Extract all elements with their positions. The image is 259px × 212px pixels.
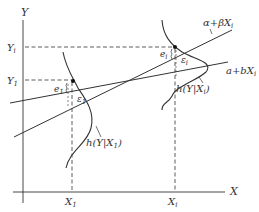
y-tick-y1: Y1 xyxy=(7,75,18,88)
residual-ei: ei xyxy=(160,49,168,61)
error-eps1: ε1 xyxy=(77,94,86,106)
x-tick-x1: X1 xyxy=(64,196,77,209)
error-epsi: εi xyxy=(181,55,188,67)
density-label-x1: h(Y|X1) xyxy=(86,137,122,150)
y-tick-yi: Yi xyxy=(7,42,16,55)
population-line-label: α+βXi xyxy=(203,17,233,30)
x-tick-xi: Xi xyxy=(167,196,177,209)
data-point-1 xyxy=(71,79,75,83)
regression-diagram: Y X Yi Y1 X1 Xi e1 ε1 ei εi α+βXi a+bXi … xyxy=(0,0,259,212)
density-curve-x1 xyxy=(63,52,92,168)
data-point-i xyxy=(173,45,177,49)
density-label-xi: h(Y|Xi) xyxy=(176,83,210,96)
x-axis-label: X xyxy=(229,185,239,198)
sample-line-label: a+bXi xyxy=(226,65,256,78)
y-axis-label: Y xyxy=(21,6,30,19)
